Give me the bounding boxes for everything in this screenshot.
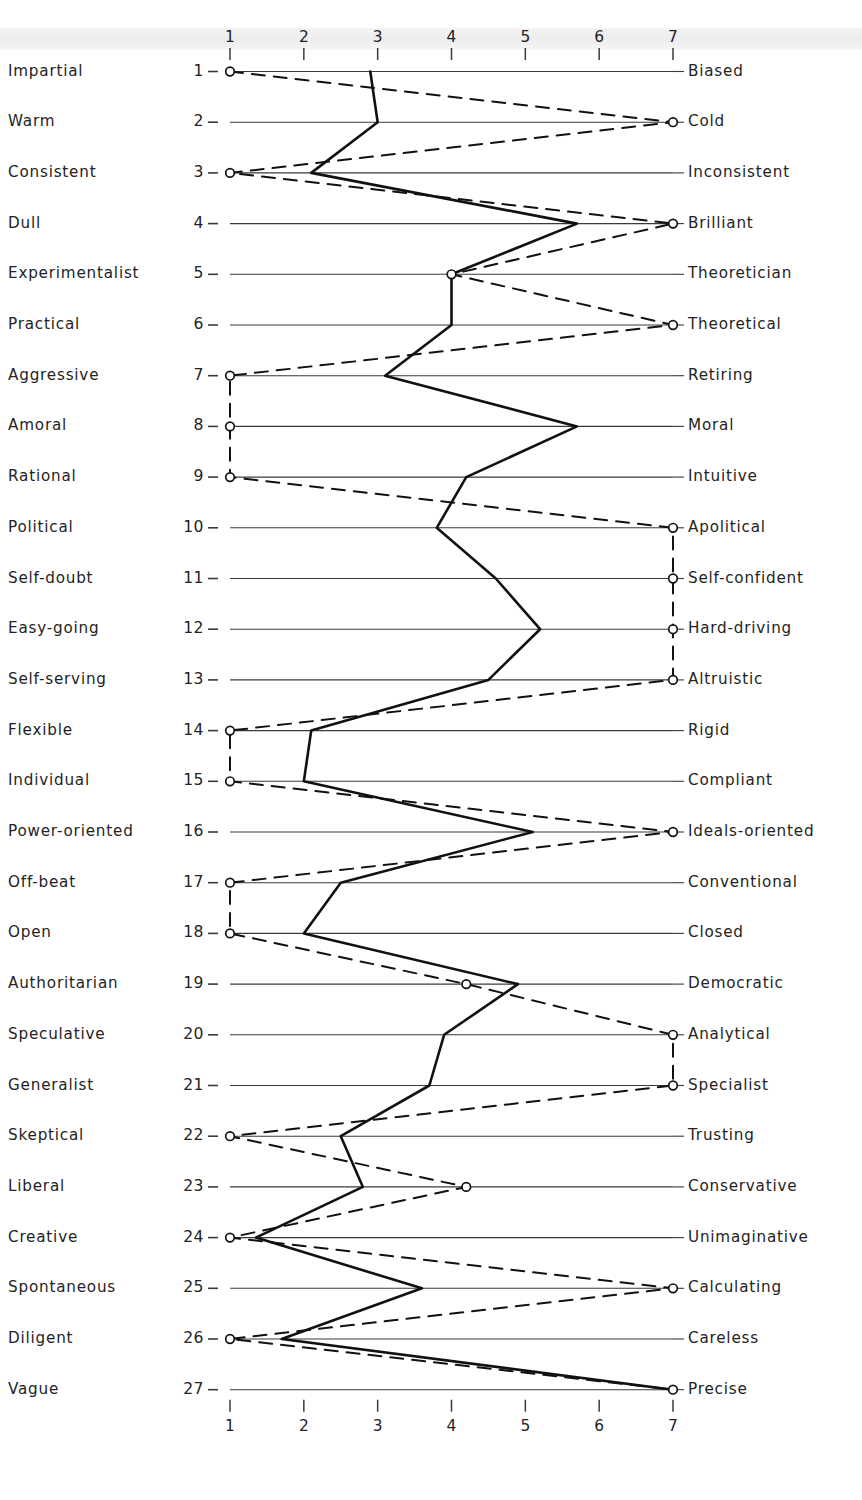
plot-area [0, 0, 862, 1500]
data-point-marker [226, 422, 235, 431]
data-point-marker [226, 878, 235, 887]
semantic-differential-chart: 1234567 1234567 ImpartialWarmConsistentD… [0, 0, 862, 1500]
data-point-marker [447, 270, 456, 279]
data-point-marker [669, 574, 678, 583]
data-point-marker [226, 1335, 235, 1344]
data-point-marker [669, 524, 678, 533]
data-point-marker [226, 473, 235, 482]
data-point-marker [669, 1081, 678, 1090]
data-point-marker [669, 1284, 678, 1293]
data-point-marker [462, 1183, 471, 1192]
data-point-marker [226, 169, 235, 178]
data-point-marker [226, 777, 235, 786]
data-point-marker [669, 118, 678, 127]
data-point-marker [669, 219, 678, 228]
data-point-marker [669, 1385, 678, 1394]
data-point-marker [669, 828, 678, 837]
data-point-marker [226, 1233, 235, 1242]
data-point-marker [226, 1132, 235, 1141]
data-point-marker [226, 371, 235, 380]
data-point-marker [669, 321, 678, 330]
data-point-marker [669, 1031, 678, 1040]
data-point-marker [669, 625, 678, 634]
data-point-marker [462, 980, 471, 989]
data-point-marker [226, 67, 235, 76]
data-point-marker [226, 726, 235, 735]
data-point-marker [226, 929, 235, 938]
data-point-marker [669, 676, 678, 685]
